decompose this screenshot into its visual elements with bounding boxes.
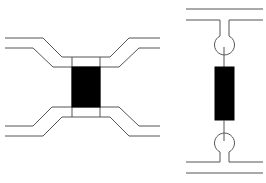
right-bottom-bulb xyxy=(215,133,235,152)
right-top-inner-line-right xyxy=(229,20,263,36)
right-bottom-inner-line-right xyxy=(229,152,263,162)
right-top-bulb xyxy=(215,36,235,55)
right-bottom-inner-line-left xyxy=(186,152,220,162)
diagram-canvas xyxy=(0,0,266,183)
right-black-element xyxy=(215,67,234,120)
right-figure xyxy=(186,9,263,173)
right-top-inner-line-left xyxy=(186,20,220,36)
left-black-element xyxy=(72,67,100,107)
left-figure xyxy=(5,38,160,136)
